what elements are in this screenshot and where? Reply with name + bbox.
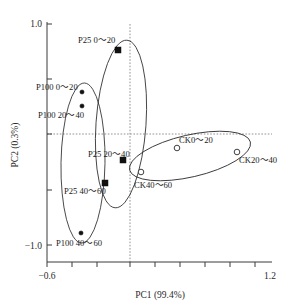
point-ck-20-40[interactable] — [234, 149, 240, 155]
x-axis-title: PC1 (99.4%) — [135, 290, 185, 301]
x-axis-min-tick-label: −0.6 — [38, 271, 55, 281]
label-ck-20-40: CK20～40 — [239, 155, 277, 165]
label-p100-20-40: P100 20～40 — [38, 110, 84, 120]
y-axis-min-tick-label: −1.0 — [25, 241, 42, 251]
label-p100-0-20: P100 0～20 — [36, 82, 78, 92]
x-axis-max-tick-label: 1.2 — [264, 271, 276, 281]
chart-page: 1.0 −1.0 −0.6 1.2 PC1 (99.4%) PC2 (0.3%) — [0, 0, 289, 307]
point-p100-40-60[interactable] — [79, 231, 83, 235]
point-ck-40-60[interactable] — [138, 169, 144, 175]
point-p100-20-40[interactable] — [80, 104, 84, 108]
label-p25-0-20: P25 0～20 — [78, 35, 115, 45]
label-p100-40-60: P100 40～60 — [56, 238, 102, 248]
point-p25-0-20[interactable] — [115, 47, 121, 53]
y-axis-max-tick-label: 1.0 — [30, 19, 42, 29]
point-p100-0-20[interactable] — [80, 90, 84, 94]
y-axis-title: PC2 (0.3%) — [10, 123, 21, 168]
label-ck-40-60: CK40～60 — [134, 180, 172, 190]
label-p25-40-60: P25 40～60 — [64, 186, 106, 196]
point-ck-0-20[interactable] — [174, 145, 180, 151]
pca-scatter-plot: 1.0 −1.0 −0.6 1.2 PC1 (99.4%) PC2 (0.3%) — [0, 0, 289, 307]
label-p25-20-40: P25 20～40 — [88, 149, 130, 159]
label-ck-0-20: CK0～20 — [179, 135, 213, 145]
